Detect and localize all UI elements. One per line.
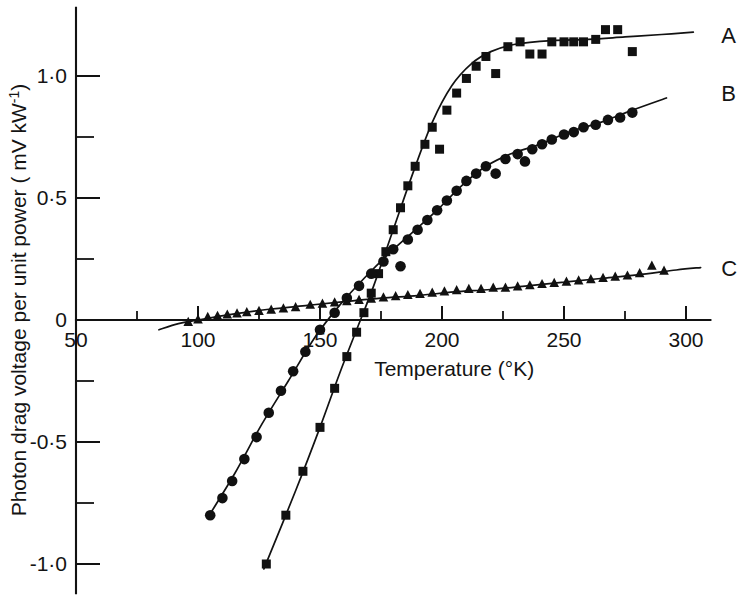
data-point-square	[330, 384, 339, 393]
x-tick-label: 100	[180, 328, 215, 351]
data-point-circle	[500, 154, 511, 165]
data-point-circle	[239, 454, 250, 465]
data-point-square	[547, 37, 556, 46]
data-point-square	[262, 560, 271, 569]
data-point-circle	[205, 510, 216, 521]
data-markers	[183, 25, 668, 568]
data-point-circle	[490, 168, 501, 179]
data-point-square	[491, 69, 500, 78]
data-point-circle	[251, 432, 262, 443]
data-point-square	[352, 328, 361, 337]
series-B	[205, 107, 638, 520]
x-axis-title: Temperature (°K)	[374, 357, 534, 380]
data-point-circle	[603, 115, 614, 126]
data-point-square	[435, 145, 444, 154]
data-point-triangle	[647, 261, 657, 270]
data-point-square	[516, 37, 525, 46]
data-point-square	[569, 37, 578, 46]
data-point-square	[359, 308, 368, 317]
data-point-triangle	[391, 291, 401, 300]
data-point-square	[538, 50, 547, 59]
data-point-circle	[471, 168, 482, 179]
data-point-square	[628, 47, 637, 56]
data-point-circle	[412, 224, 423, 235]
data-point-circle	[461, 176, 472, 187]
data-point-circle	[537, 139, 548, 150]
data-point-square	[452, 89, 461, 98]
data-point-triangle	[635, 268, 645, 277]
x-tick-label: 200	[424, 328, 459, 351]
series-label-C: C	[721, 256, 737, 281]
data-point-circle	[354, 281, 365, 292]
data-point-square	[298, 467, 307, 476]
data-point-square	[281, 511, 290, 520]
data-point-square	[525, 50, 534, 59]
data-point-triangle	[403, 290, 413, 299]
data-point-circle	[481, 161, 492, 172]
data-point-square	[428, 123, 437, 132]
data-point-circle	[329, 307, 340, 318]
series-label-A: A	[721, 23, 736, 48]
data-point-triangle	[476, 284, 486, 293]
y-tick-label: 1·0	[37, 64, 67, 87]
y-tick-label: -0·5	[30, 430, 67, 453]
data-point-circle	[527, 144, 538, 155]
data-point-square	[389, 225, 398, 234]
data-point-square	[601, 25, 610, 34]
data-point-circle	[217, 493, 228, 504]
chart-figure: -1·0-0·500·51·050100150200250300ABCTempe…	[0, 0, 737, 604]
data-point-triangle	[440, 286, 450, 295]
data-point-square	[316, 423, 325, 432]
x-tick-label: 300	[668, 328, 703, 351]
data-point-circle	[627, 107, 638, 118]
data-point-circle	[227, 476, 238, 487]
data-point-square	[442, 106, 451, 115]
x-tick-label: 50	[64, 328, 87, 351]
data-point-square	[579, 37, 588, 46]
data-point-circle	[559, 129, 570, 140]
x-tick-label: 250	[546, 328, 581, 351]
data-point-triangle	[415, 289, 425, 298]
data-point-square	[472, 62, 481, 71]
data-point-square	[403, 181, 412, 190]
series-A	[262, 25, 637, 568]
data-point-square	[342, 352, 351, 361]
data-point-square	[396, 203, 405, 212]
data-point-triangle	[488, 283, 498, 292]
data-point-circle	[568, 127, 579, 138]
data-point-square	[613, 25, 622, 34]
data-point-triangle	[203, 312, 213, 321]
axes	[76, 8, 710, 594]
data-point-square	[411, 162, 420, 171]
data-point-triangle	[452, 285, 462, 294]
data-point-circle	[403, 234, 414, 245]
data-point-circle	[388, 244, 399, 255]
series-label-B: B	[721, 81, 736, 106]
data-point-circle	[590, 120, 601, 131]
data-point-circle	[366, 268, 377, 279]
data-point-circle	[432, 205, 443, 216]
data-point-circle	[615, 112, 626, 123]
data-point-circle	[263, 407, 274, 418]
data-point-square	[420, 140, 429, 149]
data-point-circle	[578, 122, 589, 133]
series-C	[183, 261, 668, 326]
data-point-circle	[442, 195, 453, 206]
data-point-triangle	[659, 266, 669, 275]
data-point-circle	[288, 366, 299, 377]
data-point-circle	[520, 156, 531, 167]
data-point-circle	[378, 256, 389, 267]
data-point-circle	[547, 134, 558, 145]
data-point-circle	[395, 261, 406, 272]
data-point-square	[462, 74, 471, 83]
data-point-circle	[451, 185, 462, 196]
y-tick-label: -1·0	[30, 552, 67, 575]
y-tick-label: 0·5	[37, 186, 67, 209]
photon-drag-chart: -1·0-0·500·51·050100150200250300ABCTempe…	[0, 0, 737, 604]
data-point-circle	[276, 385, 287, 396]
data-point-square	[503, 42, 512, 51]
y-axis-title: Photon drag voltage per unit power ( mV …	[6, 84, 30, 517]
data-point-square	[591, 35, 600, 44]
data-point-square	[481, 52, 490, 61]
data-point-square	[560, 37, 569, 46]
